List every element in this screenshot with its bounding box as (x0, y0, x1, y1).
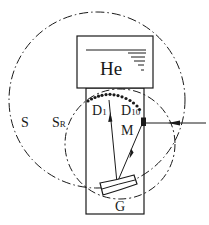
he-source-label: He (100, 59, 122, 78)
grating-label: G (115, 200, 125, 214)
detector-d1-label-sub: 1 (102, 107, 107, 117)
optical-diagram: He S SR D1 D10 M G (0, 0, 209, 225)
detector-d1-label-main: D (92, 103, 102, 118)
detector-d1-label: D1 (92, 104, 107, 118)
rowland-circle-label: SR (52, 116, 66, 130)
rowland-circle-label-sub: R (60, 119, 66, 129)
detector-d10-label: D10 (121, 104, 140, 118)
detector-d10-label-sub: 10 (131, 107, 140, 117)
rowland-circle-label-main: S (52, 115, 60, 130)
input-beam-arrow (146, 121, 206, 126)
large-circle-label: S (21, 116, 29, 130)
mirror-label: M (121, 124, 133, 138)
grating-g (100, 175, 137, 195)
ray-to-d1 (108, 100, 117, 183)
detector-d10-label-main: D (121, 103, 131, 118)
